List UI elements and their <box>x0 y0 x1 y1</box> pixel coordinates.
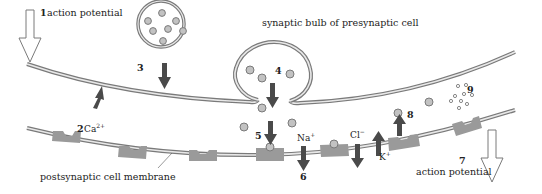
exocytosis-arrow <box>266 83 279 108</box>
step-6-number: 6 <box>300 171 307 182</box>
step-4-number: 4 <box>275 65 282 76</box>
step-9-number: 9 <box>467 84 474 95</box>
step-3-number: 3 <box>137 62 144 73</box>
receptor-6 <box>388 134 420 151</box>
sodium-influx-arrow <box>297 146 310 171</box>
step-5-number: 5 <box>255 130 262 141</box>
step-7-number: 7 <box>459 155 466 166</box>
step-1-label: action potential <box>47 7 123 18</box>
calcium-influx-arrow <box>93 86 104 109</box>
action-potential-in-arrow <box>19 10 41 62</box>
step-1-number: 1 <box>40 7 47 18</box>
step-7-label: action potential <box>416 166 492 177</box>
synaptic-vesicle <box>138 1 186 47</box>
receptor-7 <box>452 116 482 136</box>
step-8-number: 8 <box>407 109 414 120</box>
neurotransmitter-release-arrow <box>393 114 406 136</box>
binding-arrow <box>264 121 277 145</box>
receptor-3 <box>189 150 217 161</box>
synapse-diagram: 1 action potential synaptic bulb of pres… <box>0 0 542 194</box>
potassium-label: K+ <box>379 150 391 162</box>
sodium-label: Na+ <box>297 131 315 143</box>
chloride-label: Cl− <box>350 128 365 140</box>
vesicle-move-arrow <box>158 63 171 89</box>
postsynaptic-pointer <box>158 153 172 168</box>
postsynaptic-label: postsynaptic cell membrane <box>40 171 176 182</box>
presynaptic-label: synaptic bulb of presynaptic cell <box>262 17 418 28</box>
calcium-label: Ca2+ <box>84 122 105 134</box>
step-2-number: 2 <box>77 123 84 134</box>
